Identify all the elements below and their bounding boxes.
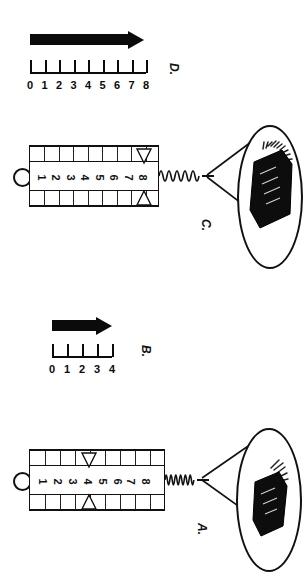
panel-label-B: B. xyxy=(139,345,153,357)
ruler-tick-label: 0 xyxy=(27,80,33,91)
pointer-indicator-C xyxy=(133,146,155,208)
arrow-shaft-icon xyxy=(30,34,130,45)
ruler-tick xyxy=(52,344,54,357)
panel-C: 1 2 3 4 5 6 7 8 xyxy=(0,130,304,290)
panel-D-arrow xyxy=(30,30,155,50)
scale-number: 7 xyxy=(125,478,136,484)
spring-stretched-C xyxy=(158,164,204,188)
scale-number: 2 xyxy=(52,478,63,484)
panel-A: 1 2 3 4 5 6 7 8 xyxy=(0,412,304,585)
ruler-tick xyxy=(103,60,105,73)
scale-number: 2 xyxy=(50,174,61,180)
panel-B-ruler xyxy=(52,344,122,358)
panel-D: 0 1 2 3 4 5 6 7 8 D. xyxy=(0,0,304,130)
ruler-tick xyxy=(30,60,32,73)
panel-B: 0 1 2 3 4 B. xyxy=(0,292,304,412)
scale-number: 4 xyxy=(79,174,90,180)
callout-A xyxy=(200,428,304,585)
panel-label-A: A. xyxy=(195,523,209,535)
ruler-tick xyxy=(74,60,76,73)
ruler-tick xyxy=(117,60,119,73)
scale-number: 5 xyxy=(94,174,105,180)
ruler-tick-label: 6 xyxy=(114,80,120,91)
scale-number: 3 xyxy=(67,478,78,484)
ruler-tick xyxy=(112,344,114,357)
ruler-tick-label: 0 xyxy=(49,364,55,375)
scale-number: 6 xyxy=(112,478,123,484)
ruler-tick-label: 3 xyxy=(71,80,77,91)
brush-spread-icon xyxy=(238,140,300,250)
scale-number: 3 xyxy=(65,174,76,180)
ruler-tick-label: 1 xyxy=(42,80,48,91)
scale-number: 8 xyxy=(140,478,151,484)
ruler-tick-label: 4 xyxy=(85,80,91,91)
ruler-tick xyxy=(82,344,84,357)
panel-label-D: D. xyxy=(167,63,181,75)
spring-compressed-A xyxy=(164,468,198,492)
ruler-tick xyxy=(88,60,90,73)
ruler-tick xyxy=(146,60,148,73)
panel-D-ruler xyxy=(30,60,150,74)
ruler-tick-label: 1 xyxy=(64,364,70,375)
pointer-indicator-A xyxy=(78,450,100,512)
figure-root: 0 1 2 3 4 5 6 7 8 D. xyxy=(0,0,304,585)
panel-label-C: C. xyxy=(199,219,213,231)
ruler-tick xyxy=(67,344,69,357)
ruler-tick-label: 3 xyxy=(94,364,100,375)
ruler-tick xyxy=(97,344,99,357)
scale-number: 7 xyxy=(123,174,134,180)
callout-C xyxy=(205,125,304,285)
arrow-head-icon xyxy=(128,31,144,49)
scale-body-A: 1 2 3 4 5 6 7 8 xyxy=(29,449,165,511)
panel-B-arrow xyxy=(52,316,142,336)
scale-number: 6 xyxy=(108,174,119,180)
ruler-tick xyxy=(132,60,134,73)
scale-number: 1 xyxy=(36,174,47,180)
ruler-tick-label: 7 xyxy=(129,80,135,91)
scale-number: 1 xyxy=(37,478,48,484)
brush-slight-icon xyxy=(237,456,299,566)
ruler-tick-label: 2 xyxy=(56,80,62,91)
arrow-shaft-icon xyxy=(52,320,98,331)
ruler-tick-label: 4 xyxy=(109,364,115,375)
ruler-tick xyxy=(45,60,47,73)
scale-body-C: 1 2 3 4 5 6 7 8 xyxy=(29,145,159,207)
ruler-tick xyxy=(59,60,61,73)
ruler-tick-label: 2 xyxy=(79,364,85,375)
arrow-head-icon xyxy=(96,317,112,335)
ruler-tick-label: 8 xyxy=(143,80,149,91)
ruler-tick-label: 5 xyxy=(100,80,106,91)
